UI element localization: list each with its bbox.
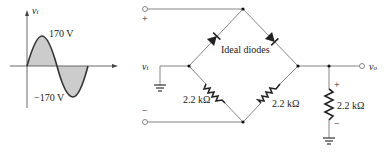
ground-icon [154, 85, 166, 91]
resistor-load-icon [325, 89, 333, 120]
x-axis-arrow-icon [112, 64, 118, 68]
negative-peak-label: −170 V [34, 93, 64, 103]
y-axis-arrow-icon [25, 10, 29, 16]
positive-peak-label: 170 V [49, 29, 74, 39]
ground-icon [323, 138, 335, 144]
output-terminal [360, 64, 365, 69]
output-voltage-label: vo [369, 62, 377, 72]
input-minus-label: − [142, 106, 148, 116]
input-terminal-bottom [143, 120, 148, 125]
input-plus-label: + [142, 14, 148, 24]
diodes-label: Ideal diodes [221, 45, 270, 55]
resistor-load-label: 2.2 kΩ [337, 101, 364, 111]
load-minus-label: − [334, 119, 340, 129]
circuit-diagram [0, 0, 390, 159]
resistor-right-label: 2.2 kΩ [272, 99, 299, 109]
resistor-left-label: 2.2 kΩ [183, 95, 210, 105]
load-plus-label: + [334, 80, 340, 90]
waveform-axis-label: vi [32, 6, 38, 16]
input-terminal-top [143, 7, 148, 12]
junction-dots [187, 7, 330, 123]
input-voltage-label: vi [142, 62, 148, 72]
